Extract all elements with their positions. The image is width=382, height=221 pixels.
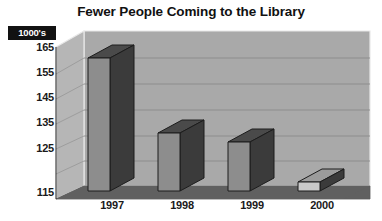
x-tick-1999: 1999 [222,199,282,211]
y-tick-135: 135 [8,116,54,128]
x-tick-1998: 1998 [152,199,212,211]
y-axis: 165 155 145 135 125 115 [0,0,54,221]
bar-1998-front [158,133,180,191]
y-tick-145: 145 [8,91,54,103]
plot-area [0,0,382,221]
bar-1997-side [110,45,134,191]
x-tick-1997: 1997 [82,199,142,211]
bar-1997[interactable] [88,45,134,191]
x-tick-2000: 2000 [292,199,352,211]
bar-1998[interactable] [158,120,204,191]
bar-1999-front [228,142,250,191]
plot-svg [0,0,382,221]
left-wall [56,31,84,199]
y-tick-125: 125 [8,142,54,154]
bar-2000-front [298,182,320,191]
y-tick-115: 115 [8,186,54,198]
bar-1999[interactable] [228,129,274,191]
y-tick-155: 155 [8,66,54,78]
y-tick-165: 165 [8,41,54,53]
bar-chart: Fewer People Coming to the Library 1000'… [0,0,382,221]
bar-1998-side [180,120,204,191]
bar-1997-front [88,58,110,191]
